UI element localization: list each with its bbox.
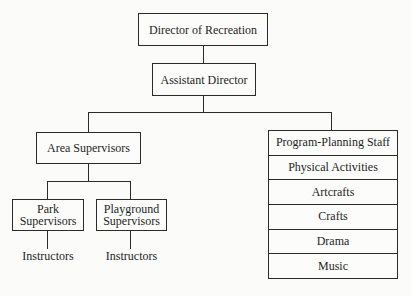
connector-area-right [130, 181, 131, 199]
assistant-label: Assistant Director [161, 74, 248, 86]
connector-branch-left [88, 112, 89, 132]
program-planning-stack: Program-Planning Staff Physical Activiti… [268, 130, 398, 279]
connector-assistant-branch [203, 96, 204, 113]
connector-area-left [47, 181, 48, 199]
area-supervisors-box: Area Supervisors [36, 132, 141, 164]
connector-director-assistant [203, 46, 204, 63]
physical-activities-row: Physical Activities [269, 156, 397, 181]
director-label: Director of Recreation [149, 24, 257, 36]
artcrafts-row: Artcrafts [269, 180, 397, 205]
program-planning-staff-row: Program-Planning Staff [269, 131, 397, 156]
connector-area-horizontal [47, 181, 131, 182]
director-of-recreation-box: Director of Recreation [138, 13, 268, 46]
park-supervisors-line2: Supervisors [20, 215, 77, 227]
connector-park-instructors [47, 231, 48, 249]
connector-branch-horizontal [88, 112, 332, 113]
park-instructors-label: Instructors [12, 249, 84, 264]
crafts-row: Crafts [269, 205, 397, 230]
assistant-director-box: Assistant Director [152, 63, 256, 96]
playground-supervisors-box: Playground Supervisors [96, 199, 167, 231]
playground-instructors-label: Instructors [96, 249, 167, 264]
connector-area-branch [88, 164, 89, 182]
area-supervisors-label: Area Supervisors [47, 142, 130, 154]
music-row: Music [269, 254, 397, 278]
connector-branch-right [331, 112, 332, 130]
park-supervisors-box: Park Supervisors [12, 199, 84, 231]
playground-supervisors-line2: Supervisors [103, 215, 160, 227]
connector-playground-instructors [130, 231, 131, 249]
drama-row: Drama [269, 230, 397, 255]
